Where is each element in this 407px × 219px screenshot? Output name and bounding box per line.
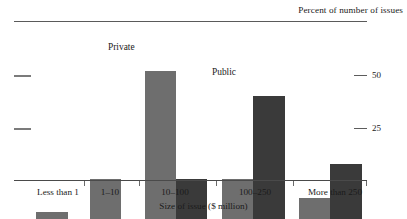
bar-private-less-than-1 bbox=[36, 212, 68, 219]
x-category-label-5: More than 250 bbox=[295, 187, 375, 197]
x-tick-4 bbox=[293, 181, 294, 186]
x-tick-1 bbox=[84, 181, 85, 186]
x-tick-5 bbox=[366, 181, 367, 186]
series-annotation-private: Private bbox=[108, 42, 135, 52]
header-divider bbox=[14, 21, 367, 22]
x-axis-title: Size of issue ($ million) bbox=[0, 201, 407, 211]
x-tick-2 bbox=[139, 181, 140, 186]
x-tick-3 bbox=[216, 181, 217, 186]
y-axis-label-50: 50 bbox=[372, 70, 381, 80]
figure-bar-chart: Percent of number of issues 50 25 Privat… bbox=[0, 0, 407, 219]
x-category-label-2: 1–10 bbox=[82, 187, 138, 197]
y-tick-left-25 bbox=[14, 128, 31, 130]
x-category-label-4: 100–250 bbox=[220, 187, 290, 197]
bar-private-1-10 bbox=[90, 179, 121, 219]
y-tick-left-50 bbox=[14, 75, 31, 77]
bar-private-100-250 bbox=[222, 179, 253, 219]
x-axis-line bbox=[14, 180, 367, 181]
page-title: Percent of number of issues bbox=[298, 5, 403, 15]
x-category-label-3: 10–100 bbox=[142, 187, 208, 197]
bar-public-10-100 bbox=[176, 179, 207, 219]
y-axis-label-25: 25 bbox=[372, 123, 381, 133]
